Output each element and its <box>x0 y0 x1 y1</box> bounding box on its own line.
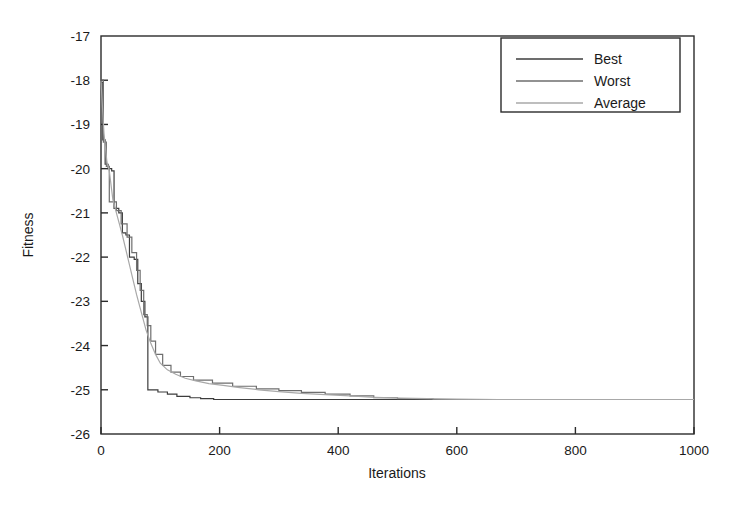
x-tick-label: 800 <box>564 443 587 458</box>
legend-label-worst: Worst <box>594 73 630 89</box>
chart-legend: BestWorstAverage <box>501 38 680 112</box>
x-tick-label: 600 <box>446 443 469 458</box>
y-tick-label: -22 <box>70 250 90 265</box>
chart-figure: 02004006008001000 -26-25-24-23-22-21-20-… <box>0 0 737 505</box>
x-tick-label: 200 <box>208 443 231 458</box>
y-tick-label: -25 <box>70 383 90 398</box>
y-tick-label: -19 <box>70 117 90 132</box>
y-tick-label: -17 <box>70 29 90 44</box>
x-tick-label: 400 <box>327 443 350 458</box>
legend-box <box>501 38 680 112</box>
y-axis-title: Fitness <box>20 212 36 257</box>
y-tick-label: -26 <box>70 427 90 442</box>
x-axis-title: Iterations <box>368 465 426 481</box>
y-tick-label: -20 <box>70 162 90 177</box>
x-tick-label: 0 <box>97 443 105 458</box>
y-tick-label: -23 <box>70 294 90 309</box>
y-tick-label: -21 <box>70 206 90 221</box>
y-tick-label: -18 <box>70 73 90 88</box>
x-tick-label: 1000 <box>679 443 709 458</box>
fitness-convergence-chart: 02004006008001000 -26-25-24-23-22-21-20-… <box>0 0 737 505</box>
legend-label-best: Best <box>594 51 622 67</box>
legend-label-average: Average <box>594 95 646 111</box>
y-tick-label: -24 <box>70 339 90 354</box>
